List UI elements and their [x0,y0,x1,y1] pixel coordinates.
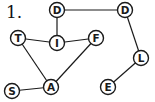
node-a: A [44,80,59,95]
node-label: S [8,85,16,97]
node-label: D [53,4,62,16]
node-label: I [55,37,59,49]
node-label: F [92,32,99,44]
node-label: D [121,4,130,16]
node-f: F [89,31,104,46]
edge-t-a [18,38,51,87]
node-label: T [14,32,22,44]
node-s: S [5,84,20,99]
node-d1: D [50,3,65,18]
node-label: A [47,81,56,93]
node-label: L [138,52,145,64]
node-label: E [104,81,111,93]
node-i: I [50,36,65,51]
node-e: E [101,80,116,95]
node-l: L [134,51,149,66]
graph-diagram: DDTIFLSAE [0,0,155,102]
node-d2: D [118,3,133,18]
graph-edges [12,10,141,91]
node-t: T [11,31,26,46]
